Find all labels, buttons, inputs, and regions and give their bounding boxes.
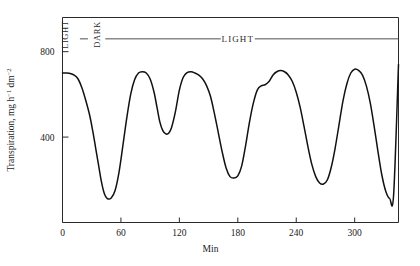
- y-tick-label-800: 800: [40, 47, 55, 57]
- x-axis-title: Min: [203, 244, 219, 254]
- figure-container: 060120180240300 400800 LIGHT DARK LIGHT …: [0, 0, 420, 266]
- x-tick-label-120: 120: [172, 228, 187, 238]
- x-tick-label-60: 60: [116, 228, 126, 238]
- y-axis-title: Transpiration, mg h−1 dm−2: [5, 68, 17, 171]
- x-tick-label-180: 180: [231, 228, 246, 238]
- x-tick-label-300: 300: [348, 228, 363, 238]
- y-tick-label-400: 400: [40, 133, 55, 143]
- x-tick-label-240: 240: [289, 228, 304, 238]
- light-label-left: LIGHT: [60, 20, 70, 49]
- transpiration-chart: 060120180240300 400800 LIGHT DARK LIGHT …: [0, 0, 420, 266]
- dark-label: DARK: [92, 21, 102, 48]
- light-label-span: LIGHT: [222, 34, 255, 44]
- x-tick-label-0: 0: [60, 228, 65, 238]
